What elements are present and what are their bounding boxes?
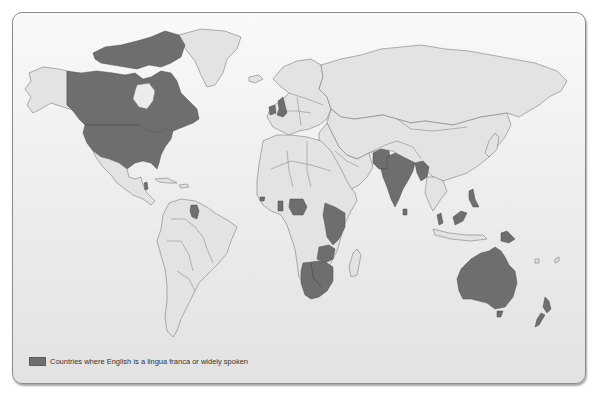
region-australia (457, 247, 517, 309)
region-nigeria (289, 199, 307, 215)
legend-label: Countries where English is a lingua fran… (50, 357, 248, 366)
region-iceland (249, 75, 263, 83)
region-ireland (269, 105, 276, 115)
region-papua-new-guinea (501, 231, 515, 243)
legend-swatch (29, 357, 46, 366)
region-pacific-islands-2 (555, 257, 559, 263)
region-malaysia (437, 213, 443, 225)
region-canada-islands (93, 31, 185, 69)
region-pacific-islands (535, 259, 539, 263)
region-southern-africa (301, 261, 333, 299)
region-usa (83, 125, 173, 169)
region-cuba (155, 178, 177, 183)
map-frame: Countries where English is a lingua fran… (12, 12, 586, 384)
region-sri-lanka (403, 209, 407, 215)
region-south-america (157, 199, 237, 337)
region-belize (144, 182, 148, 190)
region-new-zealand (543, 297, 551, 313)
legend: Countries where English is a lingua fran… (29, 357, 248, 366)
region-indonesia (433, 229, 487, 241)
world-map (13, 13, 585, 383)
region-madagascar (349, 249, 361, 277)
region-russia (319, 45, 567, 125)
region-europe (267, 59, 331, 135)
region-ghana (278, 201, 283, 211)
region-borneo-malaysia (453, 211, 467, 225)
region-canada (67, 71, 199, 133)
region-sierra-leone (260, 197, 265, 201)
region-tasmania (497, 311, 503, 317)
region-new-zealand-south (535, 313, 545, 327)
region-hispaniola (179, 184, 189, 188)
region-philippines (469, 189, 479, 207)
region-greenland (179, 29, 241, 87)
region-southeast-asia (425, 177, 447, 211)
